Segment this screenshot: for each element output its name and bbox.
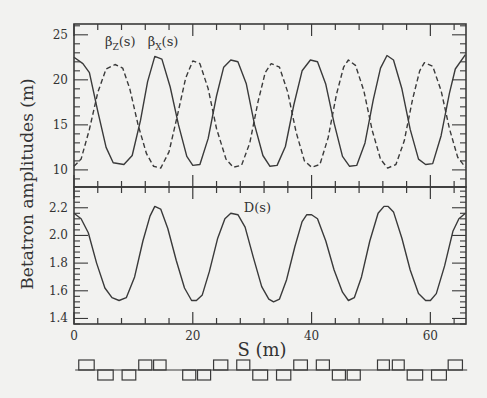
y-tick-label: 1.6 xyxy=(49,284,68,298)
y-tick-label: 1.8 xyxy=(49,256,68,270)
focusing-magnet xyxy=(139,360,152,370)
betatron-chart: 10152025βZ(s)βX(s) 1.41.61.82.02.2D(s) B… xyxy=(0,0,487,398)
x-tick-label: 20 xyxy=(185,329,200,343)
beta-x-curve xyxy=(74,55,465,167)
defocusing-magnet xyxy=(253,370,268,380)
defocusing-magnet xyxy=(198,370,211,380)
y-tick-label: 15 xyxy=(53,118,68,132)
defocusing-magnet xyxy=(347,370,360,380)
dispersion-panel: 1.41.61.82.02.2D(s) xyxy=(49,187,466,325)
y-axis-label: Betatron amplitudes (m) xyxy=(17,78,37,289)
y-tick-label: 1.4 xyxy=(49,311,68,325)
defocusing-magnet xyxy=(98,370,113,380)
focusing-magnet xyxy=(79,360,94,370)
focusing-magnet xyxy=(316,360,329,370)
curve-annotation: βZ(s) xyxy=(105,34,136,52)
y-tick-label: 20 xyxy=(53,73,68,87)
focusing-magnet xyxy=(378,360,390,370)
defocusing-magnet xyxy=(277,370,291,380)
beta-panel: 10152025βZ(s)βX(s) xyxy=(53,24,466,187)
y-tick-label: 2.0 xyxy=(49,228,68,242)
focusing-magnet xyxy=(154,360,166,370)
defocusing-magnet xyxy=(432,370,447,380)
defocusing-magnet xyxy=(407,370,422,380)
y-tick-label: 25 xyxy=(53,28,68,42)
defocusing-magnet xyxy=(183,370,196,380)
x-tick-label: 0 xyxy=(70,329,78,343)
x-tick-label: 40 xyxy=(304,329,319,343)
focusing-magnet xyxy=(392,360,404,370)
defocusing-magnet xyxy=(332,370,345,380)
focusing-magnet xyxy=(294,360,308,370)
defocusing-magnet xyxy=(122,370,136,380)
curve-annotation: D(s) xyxy=(244,200,271,215)
y-tick-label: 10 xyxy=(53,163,68,177)
y-tick-label: 2.2 xyxy=(49,201,68,215)
focusing-magnet xyxy=(214,360,228,370)
dispersion-curve xyxy=(74,206,465,302)
focusing-magnet xyxy=(237,360,250,370)
focusing-magnet xyxy=(448,360,462,370)
x-axis-label: S (m) xyxy=(237,339,286,360)
x-tick-label: 60 xyxy=(423,329,438,343)
lattice-diagram xyxy=(75,360,467,380)
curve-annotation: βX(s) xyxy=(148,34,179,52)
